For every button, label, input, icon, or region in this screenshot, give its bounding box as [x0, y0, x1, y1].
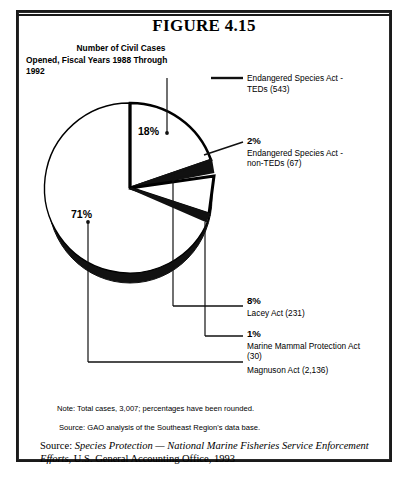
source-citation: Source: Species Protection — National Ma… [40, 440, 370, 465]
callout-mmpa: 1% Marine Mammal Protection Act (30) [247, 329, 360, 362]
callout-esa-nonteds-line2: non-TEDs (67) [247, 158, 343, 169]
pie-chart [0, 0, 410, 487]
callout-esa-teds: Endangered Species Act - TEDs (543) [247, 73, 343, 94]
callout-lacey-line1: Lacey Act (231) [247, 308, 305, 319]
figure-container: FIGURE 4.15 Number of Civil Cases Opened… [0, 0, 410, 487]
pie-label-71-percent: 71% [71, 208, 92, 220]
leader-dot-teds [165, 131, 169, 135]
source-prefix: Source: [40, 440, 75, 451]
callout-esa-nonteds-percent: 2% [247, 136, 343, 147]
leader-line-nonteds [204, 142, 243, 155]
callout-mmpa-percent: 1% [247, 329, 360, 340]
pie-label-18-percent: 18% [138, 125, 159, 137]
callout-magnuson-line1: Magnuson Act (2,136) [247, 365, 328, 376]
callout-magnuson-act: Magnuson Act (2,136) [247, 365, 328, 376]
source-suffix: , U.S. General Accounting Office, 1993 [69, 453, 235, 464]
source-title-line1: Species Protection — National Marine Fis… [75, 440, 313, 451]
source-gao-text: Source: GAO analysis of the Southeast Re… [59, 423, 260, 432]
callout-lacey-act: 8% Lacey Act (231) [247, 296, 305, 318]
callout-lacey-percent: 8% [247, 296, 305, 307]
callout-mmpa-line2: (30) [247, 351, 360, 362]
callout-esa-nonteds: 2% Endangered Species Act - non-TEDs (67… [247, 136, 343, 169]
callout-esa-teds-line2: TEDs (543) [247, 84, 343, 95]
callout-esa-nonteds-line1: Endangered Species Act - [247, 148, 343, 159]
note-text: Note: Total cases, 3,007; percentages ha… [57, 404, 254, 413]
callout-mmpa-line1: Marine Mammal Protection Act [247, 341, 360, 352]
leader-dot-lacey [171, 174, 175, 178]
leader-dot-magnuson [86, 220, 90, 224]
callout-esa-teds-line1: Endangered Species Act - [247, 73, 343, 84]
